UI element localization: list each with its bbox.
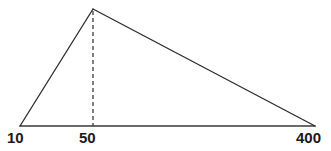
left-edge (20, 9, 93, 126)
axis-label-left: 10 (7, 130, 24, 145)
hypotenuse-edge (93, 9, 315, 126)
triangle-figure: 10 50 400 (0, 0, 331, 151)
triangle-drawing (0, 0, 331, 151)
axis-label-right: 400 (296, 130, 321, 145)
axis-label-middle: 50 (79, 130, 96, 145)
